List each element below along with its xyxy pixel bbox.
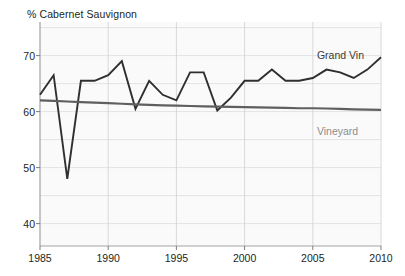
xtick-label-2000: 2000 [233,252,256,264]
chart-title-percent-symbol: % [27,8,36,20]
ytick-label-60: 60 [7,106,35,118]
xtick-label-1995: 1995 [165,252,188,264]
series-label-vineyard: Vineyard [317,125,358,137]
xtick-label-2010: 2010 [369,252,392,264]
xtick-label-2005: 2005 [301,252,324,264]
ytick-label-40: 40 [7,218,35,230]
xtick-label-1985: 1985 [28,252,51,264]
series-label-grand-vin: Grand Vin [317,49,364,61]
xtick-label-1990: 1990 [97,252,120,264]
chart-title-text: Cabernet Sauvignon [39,8,137,20]
cabernet-sauvignon-line-chart: % Cabernet Sauvignon 40506070 1985199019… [0,0,405,276]
ytick-label-70: 70 [7,50,35,62]
chart-title: % Cabernet Sauvignon [27,8,137,20]
ytick-label-50: 50 [7,162,35,174]
plot-canvas [0,0,405,276]
